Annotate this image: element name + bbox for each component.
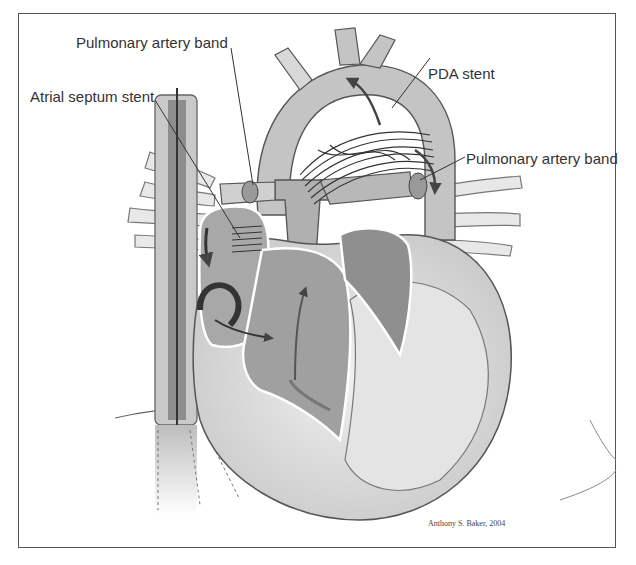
heart-illustration [0, 0, 636, 565]
heart-body [193, 207, 511, 520]
pa-band-right-marker [409, 173, 427, 199]
label-atrial-septum-stent: Atrial septum stent [30, 89, 154, 104]
label-pulmonary-artery-band-right: Pulmonary artery band [466, 151, 618, 166]
label-pda-stent: PDA stent [428, 66, 495, 81]
label-pulmonary-artery-band-top: Pulmonary artery band [76, 35, 228, 50]
pa-band-left-marker [242, 181, 258, 203]
artist-signature: Anthony S. Baker, 2004 [428, 519, 505, 528]
